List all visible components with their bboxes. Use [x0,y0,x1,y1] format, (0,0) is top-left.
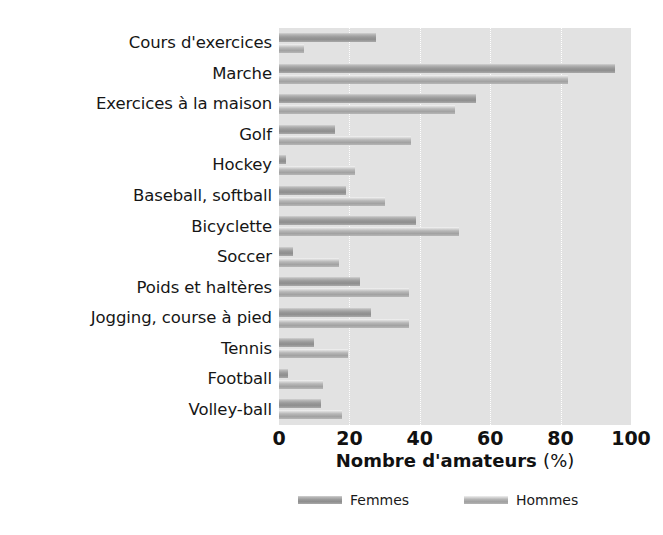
bar-hommes [279,319,409,328]
x-axis-title-unit: (%) [543,450,574,471]
category-label: Jogging, course à pied [0,310,272,327]
bar-group [279,272,631,303]
chart-figure: Cours d'exercicesMarcheExercices à la ma… [0,0,663,535]
category-label: Baseball, softball [0,188,272,205]
bar-femmes [279,308,371,317]
x-tick-label: 0 [272,427,285,449]
bar-group [279,89,631,120]
category-label: Volley-ball [0,402,272,419]
bar-group [279,364,631,395]
bar-femmes [279,338,314,347]
bar-group [279,211,631,242]
category-label: Poids et haltères [0,280,272,297]
bar-femmes [279,247,293,256]
bar-femmes [279,64,615,73]
bar-hommes [279,75,568,84]
x-tick-label: 80 [547,427,573,449]
legend-item-hommes: Hommes [464,492,578,508]
gridline-100 [631,28,632,425]
bar-femmes [279,125,335,134]
bar-femmes [279,399,321,408]
bar-femmes [279,186,346,195]
bar-hommes [279,105,455,114]
bar-group [279,303,631,334]
category-label: Marche [0,66,272,83]
bar-group [279,150,631,181]
legend-item-femmes: Femmes [298,492,409,508]
bar-group [279,394,631,425]
bar-hommes [279,349,348,358]
legend-swatch-hommes [464,496,508,504]
bar-hommes [279,380,323,389]
bar-hommes [279,197,385,206]
bar-femmes [279,33,376,42]
x-axis-tick-labels: 020406080100 [279,425,631,451]
category-label: Soccer [0,249,272,266]
bar-group [279,59,631,90]
bar-femmes [279,94,476,103]
category-label: Exercices à la maison [0,96,272,113]
category-label: Tennis [0,341,272,358]
bar-group [279,181,631,212]
bar-group [279,242,631,273]
bar-hommes [279,288,409,297]
category-label: Bicyclette [0,219,272,236]
bar-femmes [279,369,288,378]
bar-group [279,333,631,364]
x-tick-label: 60 [477,427,503,449]
category-label: Hockey [0,157,272,174]
plot-area [279,28,631,425]
bar-femmes [279,216,416,225]
bar-hommes [279,410,342,419]
x-tick-label: 100 [611,427,651,449]
bar-femmes [279,277,360,286]
x-tick-label: 40 [407,427,433,449]
category-axis-labels: Cours d'exercicesMarcheExercices à la ma… [0,28,272,425]
category-label: Golf [0,127,272,144]
legend-label-hommes: Hommes [516,492,578,508]
legend-swatch-femmes [298,496,342,504]
bar-hommes [279,258,339,267]
category-label: Cours d'exercices [0,35,272,52]
x-axis-title-text: Nombre d'amateurs [336,450,537,471]
bar-femmes [279,155,286,164]
x-tick-label: 20 [336,427,362,449]
bar-hommes [279,136,411,145]
bar-group [279,28,631,59]
category-label: Football [0,371,272,388]
x-axis-title: Nombre d'amateurs (%) [279,450,631,471]
bar-hommes [279,166,355,175]
bar-hommes [279,44,304,53]
bar-hommes [279,227,459,236]
legend-label-femmes: Femmes [350,492,409,508]
bar-group [279,120,631,151]
chart-legend: Femmes Hommes [279,492,631,516]
